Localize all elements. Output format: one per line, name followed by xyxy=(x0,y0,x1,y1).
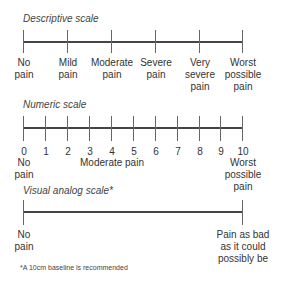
descriptive-tick xyxy=(23,30,24,53)
numeric-right-label: Worst possible pain xyxy=(225,157,262,193)
descriptive-label: Severe pain xyxy=(140,57,172,81)
numeric-tick xyxy=(177,116,178,141)
numeric-tick xyxy=(67,116,68,141)
numeric-scale-title: Numeric scale xyxy=(23,99,86,110)
numeric-tick xyxy=(23,116,24,141)
numeric-tick xyxy=(89,116,90,141)
vas-tick xyxy=(23,200,24,225)
numeric-value: 6 xyxy=(153,146,159,158)
numeric-tick xyxy=(45,116,46,141)
numeric-value: 7 xyxy=(175,146,181,158)
vas-tick xyxy=(242,200,243,225)
descriptive-tick xyxy=(111,30,112,53)
descriptive-label: Very severe pain xyxy=(185,57,215,93)
descriptive-tick xyxy=(67,30,68,53)
descriptive-label: No pain xyxy=(15,57,34,81)
descriptive-tick xyxy=(242,30,243,53)
numeric-value: 9 xyxy=(218,146,224,158)
descriptive-label: Moderate pain xyxy=(91,57,133,81)
numeric-middle-label: Moderate pain xyxy=(80,157,144,169)
numeric-tick xyxy=(220,116,221,141)
numeric-tick xyxy=(133,116,134,141)
vas-line xyxy=(23,211,243,213)
descriptive-tick xyxy=(199,30,200,53)
footnote: *A 10cm baseline is recommended xyxy=(20,264,128,271)
numeric-tick xyxy=(242,116,243,141)
numeric-value: 8 xyxy=(197,146,203,158)
descriptive-label: Worst possible pain xyxy=(225,57,262,93)
numeric-tick xyxy=(111,116,112,141)
descriptive-scale-title: Descriptive scale xyxy=(23,13,99,24)
vas-left-label: No pain xyxy=(15,229,34,253)
descriptive-tick xyxy=(155,30,156,53)
numeric-tick xyxy=(155,116,156,141)
vas-title: Visual analog scale* xyxy=(23,185,113,196)
vas-right-label: Pain as bad as it could possibly be xyxy=(217,229,270,265)
descriptive-scale-line xyxy=(23,41,243,43)
descriptive-label: Mild pain xyxy=(59,57,78,81)
numeric-value: 1 xyxy=(43,146,49,158)
numeric-left-label: No pain xyxy=(15,157,34,181)
numeric-value: 2 xyxy=(65,146,71,158)
numeric-tick xyxy=(199,116,200,141)
